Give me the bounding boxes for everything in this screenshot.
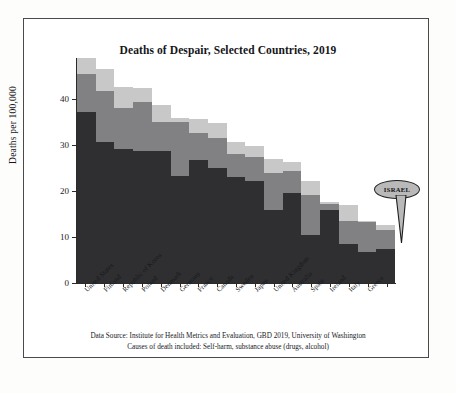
bar-segment-segment-3 bbox=[283, 162, 302, 171]
bar-segment-segment-1 bbox=[245, 181, 264, 283]
y-tick-30: 30 bbox=[60, 140, 76, 150]
y-tick-label: 10 bbox=[60, 232, 72, 242]
bar-italy bbox=[339, 58, 358, 283]
bar-segment-segment-3 bbox=[208, 123, 227, 139]
bar-segment-segment-2 bbox=[208, 138, 227, 167]
bar-segment-segment-3 bbox=[96, 69, 115, 91]
plot-area bbox=[77, 58, 395, 283]
bar-poland bbox=[133, 58, 152, 283]
bar-israel bbox=[376, 58, 395, 283]
y-tick-label: 30 bbox=[60, 140, 72, 150]
bar-segment-segment-1 bbox=[208, 168, 227, 283]
source-notes: Data Source: Institute for Health Metric… bbox=[23, 331, 433, 353]
bar-segment-segment-1 bbox=[171, 176, 190, 283]
callout-pointer-icon bbox=[394, 195, 408, 245]
y-tick-20: 20 bbox=[60, 186, 76, 196]
y-tick-mark bbox=[72, 191, 76, 192]
bar-ireland bbox=[320, 58, 339, 283]
bar-united-states bbox=[77, 58, 96, 283]
bar-segment-segment-2 bbox=[245, 157, 264, 181]
bar-segment-segment-2 bbox=[264, 173, 283, 210]
bar-segment-segment-3 bbox=[77, 58, 96, 74]
y-tick-mark bbox=[72, 145, 76, 146]
bar-france bbox=[189, 58, 208, 283]
bar-segment-segment-1 bbox=[189, 160, 208, 283]
source-note-line-2: Causes of death included: Self-harm, sub… bbox=[23, 342, 433, 353]
bar-segment-segment-2 bbox=[376, 230, 395, 249]
bar-united-kingdom bbox=[264, 58, 283, 283]
y-tick-mark bbox=[72, 237, 76, 238]
bar-segment-segment-1 bbox=[358, 252, 377, 283]
bar-spain bbox=[301, 58, 320, 283]
y-tick-label: 40 bbox=[60, 94, 72, 104]
bar-segment-segment-1 bbox=[227, 177, 246, 283]
bar-segment-segment-2 bbox=[133, 102, 152, 151]
bar-segment-segment-3 bbox=[227, 142, 246, 154]
bar-segment-segment-2 bbox=[114, 108, 133, 149]
bar-segment-segment-3 bbox=[264, 159, 283, 173]
bar-greece bbox=[358, 58, 377, 283]
bar-segment-segment-1 bbox=[77, 112, 96, 283]
bar-canada bbox=[208, 58, 227, 283]
bar-segment-segment-2 bbox=[189, 133, 208, 161]
bar-segment-segment-2 bbox=[283, 171, 302, 193]
bar-segment-segment-1 bbox=[264, 210, 283, 283]
bar-germany bbox=[171, 58, 190, 283]
y-tick-40: 40 bbox=[60, 94, 76, 104]
bar-segment-segment-2 bbox=[227, 154, 246, 177]
bar-segment-segment-3 bbox=[152, 105, 171, 122]
bar-segment-segment-2 bbox=[96, 91, 115, 142]
bar-sweden bbox=[227, 58, 246, 283]
bar-segment-segment-3 bbox=[301, 181, 320, 195]
bar-segment-segment-3 bbox=[133, 88, 152, 102]
bar-segment-segment-2 bbox=[358, 222, 377, 251]
y-tick-10: 10 bbox=[60, 232, 76, 242]
bar-segment-segment-3 bbox=[189, 119, 208, 133]
bar-segment-segment-1 bbox=[114, 149, 133, 283]
bar-segment-segment-3 bbox=[339, 205, 358, 221]
bar-republic-of-korea bbox=[114, 58, 133, 283]
y-tick-label: 20 bbox=[60, 186, 72, 196]
source-note-line-1: Data Source: Institute for Health Metric… bbox=[23, 331, 433, 342]
bar-segment-segment-2 bbox=[301, 195, 320, 234]
bar-segment-segment-2 bbox=[152, 122, 171, 151]
bar-japan bbox=[245, 58, 264, 283]
bar-segment-segment-2 bbox=[339, 221, 358, 244]
bar-segment-segment-1 bbox=[320, 210, 339, 283]
bar-segment-segment-3 bbox=[114, 87, 133, 108]
bar-denmark bbox=[152, 58, 171, 283]
y-tick-mark bbox=[72, 99, 76, 100]
israel-annotation: ISRAEL bbox=[374, 180, 418, 198]
page-canvas: Deaths of Despair, Selected Countries, 2… bbox=[0, 0, 456, 393]
bar-finland bbox=[96, 58, 115, 283]
bar-segment-segment-3 bbox=[245, 146, 264, 157]
bar-segment-segment-2 bbox=[171, 122, 190, 175]
bar-australia bbox=[283, 58, 302, 283]
bar-series-group bbox=[77, 58, 395, 283]
bar-segment-segment-1 bbox=[96, 142, 115, 283]
y-axis-title: Deaths per 100,000 bbox=[8, 50, 18, 200]
bar-segment-segment-2 bbox=[77, 74, 96, 112]
